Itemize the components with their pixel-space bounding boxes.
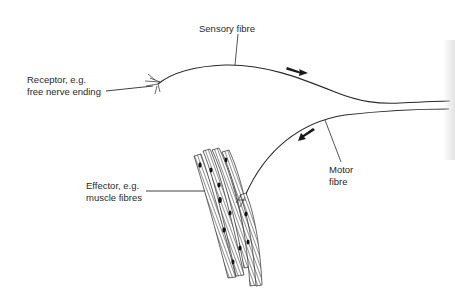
sensory-fibre-label: Sensory fibre bbox=[199, 23, 255, 35]
receptor-leader-line bbox=[106, 86, 153, 91]
diagram-drawing bbox=[0, 0, 455, 301]
receptor-label-line2: free nerve ending bbox=[27, 86, 101, 98]
effector-label-line2: muscle fibres bbox=[86, 192, 142, 204]
receptor-label-line1: Receptor, e.g. bbox=[27, 74, 86, 86]
effector-label-line1: Effector, e.g. bbox=[86, 180, 139, 192]
muscle-fibres bbox=[194, 148, 262, 286]
motor-fibre-label-line1: Motor bbox=[329, 164, 353, 176]
page-edge-shadow bbox=[443, 40, 455, 160]
receptor-nerve-ending bbox=[145, 74, 160, 94]
sensory-fibre bbox=[158, 65, 450, 103]
motor-fibre-label-line2: fibre bbox=[329, 176, 347, 188]
reflex-arc-diagram: Sensory fibre Receptor, e.g. free nerve … bbox=[0, 0, 455, 301]
sensory-leader-line bbox=[235, 34, 238, 65]
motor-leader-line bbox=[325, 120, 341, 162]
